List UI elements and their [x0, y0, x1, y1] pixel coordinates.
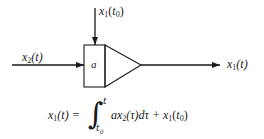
output-arg: (t): [236, 57, 247, 71]
integrand-rest: (τ)dτ +: [126, 108, 163, 122]
input-arg: (t): [31, 50, 42, 64]
lower-limit-sub: 0: [100, 128, 104, 135]
gain-label: a: [91, 58, 97, 70]
initial-condition-label: x1(t0): [99, 5, 124, 21]
equation-rhs: ax2(τ)dτ + x1(t0): [111, 108, 188, 123]
lhs-arg: (t) =: [57, 108, 79, 122]
equation-lhs: x1(t) =: [48, 108, 80, 123]
input-label: x2(t): [22, 51, 43, 67]
ic-close: ): [120, 4, 124, 18]
upper-limit: t: [103, 96, 107, 106]
output-label: x1(t): [227, 58, 248, 74]
lower-limit: t0: [96, 123, 103, 135]
integrator-triangle: [105, 45, 141, 87]
rhs-ic-close: ): [184, 108, 188, 122]
